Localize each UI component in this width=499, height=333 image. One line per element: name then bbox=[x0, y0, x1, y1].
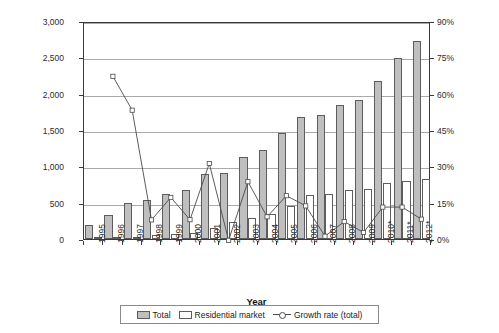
y2-tick-mark bbox=[430, 95, 434, 96]
growth-rate-marker-2006 bbox=[304, 204, 308, 208]
growth-rate-marker-2004 bbox=[265, 215, 269, 219]
growth-rate-marker-1997 bbox=[130, 108, 134, 112]
y-tick-mark bbox=[79, 204, 83, 205]
y2-tick-mark bbox=[430, 204, 434, 205]
x-tick-mark bbox=[391, 241, 392, 245]
legend-item-residential: Residential market bbox=[179, 310, 265, 320]
growth-rate-line bbox=[84, 23, 431, 241]
y-tick-label-0: 0 bbox=[4, 235, 64, 245]
y2-tick-label-30%: 30% bbox=[437, 162, 485, 172]
x-tick-mark bbox=[372, 241, 373, 245]
growth-rate-marker-2012* bbox=[419, 217, 423, 221]
growth-rate-marker-2011* bbox=[400, 205, 404, 209]
legend-label-residential: Residential market bbox=[195, 310, 265, 320]
y-tick-mark bbox=[79, 95, 83, 96]
growth-rate-marker-2000 bbox=[188, 218, 192, 222]
growth-rate-marker-2007 bbox=[323, 234, 327, 238]
growth-rate-marker-2009 bbox=[361, 230, 365, 234]
x-tick-mark bbox=[160, 241, 161, 245]
growth-rate-marker-2008 bbox=[342, 220, 346, 224]
x-tick-mark bbox=[141, 241, 142, 245]
x-tick-mark bbox=[179, 241, 180, 245]
x-tick-mark bbox=[199, 241, 200, 245]
growth-rate-marker-2001 bbox=[207, 161, 211, 165]
y-tick-mark bbox=[79, 167, 83, 168]
y2-tick-label-75%: 75% bbox=[437, 53, 485, 63]
x-tick-mark bbox=[83, 241, 84, 245]
legend-item-total: Total bbox=[137, 310, 171, 320]
y2-tick-label-60%: 60% bbox=[437, 90, 485, 100]
y2-tick-mark bbox=[430, 131, 434, 132]
x-tick-mark bbox=[295, 241, 296, 245]
growth-rate-marker-1999 bbox=[169, 195, 173, 199]
y2-tick-mark bbox=[430, 58, 434, 59]
y-tick-label-2,500: 2,500 bbox=[4, 53, 64, 63]
y2-tick-mark bbox=[430, 167, 434, 168]
x-tick-mark bbox=[102, 241, 103, 245]
growth-rate-marker-1996 bbox=[111, 74, 115, 78]
x-tick-mark bbox=[411, 241, 412, 245]
growth-rate-marker-2002 bbox=[227, 238, 231, 242]
y2-tick-mark bbox=[430, 22, 434, 23]
y-tick-label-1,000: 1,000 bbox=[4, 162, 64, 172]
x-tick-label-2012*: 2012* bbox=[424, 221, 434, 243]
x-tick-mark bbox=[314, 241, 315, 245]
growth-rate-marker-2010* bbox=[381, 205, 385, 209]
chart-legend: Total Residential market Growth rate (to… bbox=[120, 305, 379, 324]
growth-rate-marker-1998 bbox=[149, 218, 153, 222]
legend-line-marker-icon bbox=[273, 311, 291, 319]
growth-rate-marker-2005 bbox=[284, 194, 288, 198]
y-tick-label-500: 500 bbox=[4, 199, 64, 209]
plot-area bbox=[83, 22, 430, 240]
x-tick-mark bbox=[276, 241, 277, 245]
growth-rate-marker-2003 bbox=[246, 180, 250, 184]
y-tick-mark bbox=[79, 131, 83, 132]
x-tick-label-2010*: 2010* bbox=[386, 221, 396, 243]
legend-swatch-total-icon bbox=[137, 311, 150, 319]
y-tick-label-3,000: 3,000 bbox=[4, 17, 64, 27]
legend-item-growth-rate: Growth rate (total) bbox=[273, 310, 363, 320]
legend-label-growth-rate: Growth rate (total) bbox=[294, 310, 363, 320]
x-tick-label-2011*: 2011* bbox=[405, 221, 415, 243]
x-tick-mark bbox=[353, 241, 354, 245]
y2-tick-label-15%: 15% bbox=[437, 199, 485, 209]
x-tick-mark bbox=[218, 241, 219, 245]
x-tick-mark bbox=[334, 241, 335, 245]
y2-tick-label-90%: 90% bbox=[437, 17, 485, 27]
x-tick-mark bbox=[237, 241, 238, 245]
x-tick-mark bbox=[122, 241, 123, 245]
y2-tick-label-0%: 0% bbox=[437, 235, 485, 245]
y-tick-label-1,500: 1,500 bbox=[4, 126, 64, 136]
x-tick-mark bbox=[257, 241, 258, 245]
x-tick-mark bbox=[430, 241, 431, 245]
y-tick-label-2,000: 2,000 bbox=[4, 90, 64, 100]
chart-figure: Pellet consumption [1,000 t (w.b.)p/a] G… bbox=[0, 0, 499, 333]
y-tick-mark bbox=[79, 22, 83, 23]
legend-swatch-residential-icon bbox=[179, 311, 192, 319]
legend-label-total: Total bbox=[153, 310, 171, 320]
y-tick-mark bbox=[79, 58, 83, 59]
y2-tick-label-45%: 45% bbox=[437, 126, 485, 136]
